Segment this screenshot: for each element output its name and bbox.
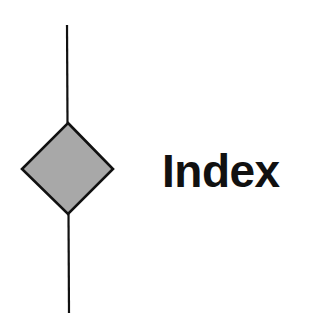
- diamond-label: Index: [162, 146, 280, 196]
- decision-diamond: [22, 123, 113, 214]
- upper-connector-line: [67, 25, 68, 123]
- lower-connector-line: [69, 214, 70, 313]
